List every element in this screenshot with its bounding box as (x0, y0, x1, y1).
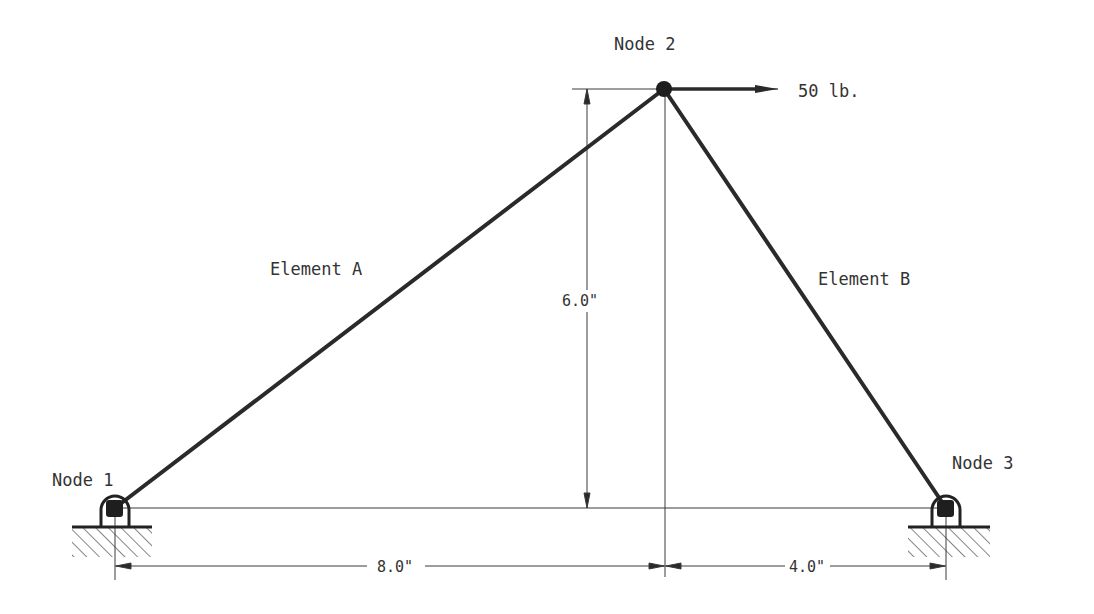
load-label: 50 lb. (798, 81, 859, 101)
element-b-member (664, 89, 946, 508)
load-arrow (664, 85, 778, 93)
arrowhead-left-icon (116, 563, 131, 569)
arrowhead-right-icon (649, 563, 664, 569)
right-span-label: 4.0" (789, 558, 825, 576)
element-a-label: Element A (270, 259, 362, 279)
node-1-label: Node 1 (52, 470, 113, 490)
truss-members (115, 89, 946, 508)
extension-lines (115, 89, 946, 580)
node-2-joint-icon (656, 81, 672, 97)
height-dimension-label: 6.0" (562, 292, 598, 310)
truss-diagram: 6.0" 8.0" 4.0" 50 lb. (0, 0, 1094, 614)
node-1-pin-support-icon (72, 496, 152, 557)
left-span-label: 8.0" (377, 558, 413, 576)
element-b-label: Element B (818, 269, 910, 289)
node-2-label: Node 2 (614, 34, 675, 54)
node-3-label: Node 3 (952, 453, 1013, 473)
arrowhead-right-icon (755, 85, 778, 93)
arrowhead-up-icon (584, 89, 590, 104)
arrowhead-down-icon (584, 493, 590, 508)
arrowhead-right-icon (930, 563, 945, 569)
arrowhead-left-icon (666, 563, 681, 569)
node-3-pin-support-icon (908, 496, 990, 557)
